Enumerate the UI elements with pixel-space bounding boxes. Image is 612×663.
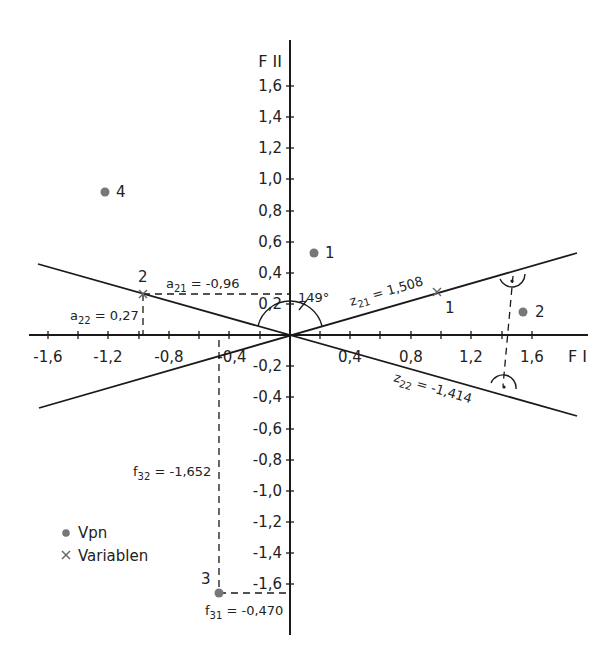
x-tick-label: -0,8	[154, 348, 183, 366]
y-tick-label: -0,4	[253, 388, 282, 406]
legend-label-vpn: Vpn	[78, 524, 107, 542]
y-tick-label: -1,6	[253, 575, 282, 593]
f31-annotation: f31 = -0,470	[205, 603, 283, 621]
y-tick-label: 1,6	[258, 77, 282, 95]
x-axis-title: F I	[568, 347, 587, 366]
variable-point-label: 1	[445, 299, 455, 317]
y-tick-label: 0,2	[258, 295, 282, 313]
y-tick-label: -1,4	[253, 544, 282, 562]
y-tick-label: -0,2	[253, 357, 282, 375]
y-tick-label: 1,4	[258, 108, 282, 126]
x-tick-label: 1,2	[459, 348, 483, 366]
x-tick-label: -1,6	[33, 348, 62, 366]
y-tick-label: 1,2	[258, 139, 282, 157]
vpn-point-3	[215, 589, 224, 598]
x-tick-label: 1,6	[520, 348, 544, 366]
vpn-point-label: 4	[116, 183, 126, 201]
f32-annotation: f32 = -1,652	[133, 464, 211, 482]
series-vpn: 1 2 3 4	[101, 183, 545, 598]
y-tick-label: 0,6	[258, 233, 282, 251]
y-tick-label: -1,0	[253, 482, 282, 500]
a21-annotation: a21 = -0,96	[166, 276, 240, 294]
y-tick-label: -0,6	[253, 420, 282, 438]
right-angle-marker-upper	[500, 274, 525, 287]
chart-svg: -1,6 -1,2 -0,8 -0,4 0,4 0,8 1,2 1,6 F I …	[0, 0, 612, 663]
y-axis-title: F II	[258, 52, 282, 71]
y-tick-label: -1,2	[253, 513, 282, 531]
vpn-point-2	[519, 308, 528, 317]
vpn-point-1	[310, 249, 319, 258]
vpn-point-label: 1	[325, 244, 335, 262]
z-projection	[503, 276, 513, 386]
y-tick-label: 1,0	[258, 170, 282, 188]
a22-annotation: a22 = 0,27	[70, 308, 139, 326]
x-tick-label: 0,4	[338, 348, 362, 366]
vpn-point-label: 3	[201, 570, 211, 588]
x-tick-labels: -1,6 -1,2 -0,8 -0,4 0,4 0,8 1,2 1,6	[33, 348, 544, 366]
z21-annotation: z21 = 1,508	[348, 274, 426, 312]
factor-loading-plot: -1,6 -1,2 -0,8 -0,4 0,4 0,8 1,2 1,6 F I …	[0, 0, 612, 663]
y-tick-label: 0,8	[258, 202, 282, 220]
legend: Vpn Variablen	[62, 524, 148, 565]
legend-label-variablen: Variablen	[78, 547, 148, 565]
vpn-point-4	[101, 188, 110, 197]
y-tick-label: 0,4	[258, 264, 282, 282]
legend-dot-icon	[62, 529, 70, 537]
angle-label: 149°	[298, 290, 329, 305]
legend-x-icon	[62, 551, 70, 559]
vpn-point-label: 2	[535, 303, 545, 321]
y-tick-label: -0,8	[253, 451, 282, 469]
x-tick-label: 0,8	[399, 348, 423, 366]
x-tick-label: -1,2	[93, 348, 122, 366]
variable-1-axis-line	[39, 253, 577, 408]
variable-point-label: 2	[138, 268, 148, 286]
x-tick-label: -0,4	[217, 348, 246, 366]
variable-2-axis-line	[38, 264, 577, 416]
